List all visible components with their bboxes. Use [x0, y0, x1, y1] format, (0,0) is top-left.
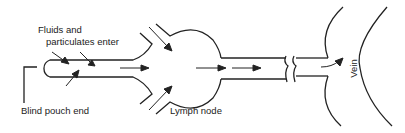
blind-pouch-label: Blind pouch end [21, 105, 89, 116]
vein-label: Vein [348, 59, 359, 78]
blind-pouch-vessel [44, 60, 120, 77]
break-mark-right [293, 56, 296, 82]
blind-pouch-leader [24, 67, 37, 103]
fluids-label-line2: particulates enter [46, 36, 119, 47]
lymph-node-label: Lymph node [170, 105, 222, 116]
break-mark-left [285, 56, 288, 82]
lymphatic-diagram: Fluids and particulates enter Blind pouc… [0, 0, 405, 133]
afferent-lower-left [120, 77, 152, 104]
vein-wall-right [359, 7, 392, 126]
afferent-top [156, 24, 221, 58]
afferent-upper-left [120, 33, 152, 60]
fluids-label-line1: Fluids and [38, 24, 82, 35]
